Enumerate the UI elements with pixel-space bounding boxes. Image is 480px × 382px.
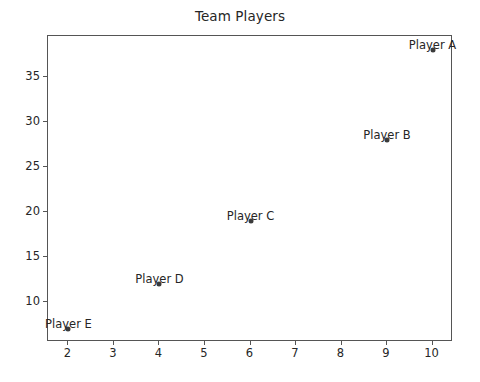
x-tick-label: 5: [200, 346, 207, 360]
data-point-label: Player B: [363, 128, 410, 142]
x-tick-label: 4: [155, 346, 162, 360]
x-tick-label: 2: [64, 346, 71, 360]
x-tick-mark: [204, 341, 205, 345]
x-tick-mark: [295, 341, 296, 345]
y-tick-label: 35: [25, 69, 40, 83]
y-tick-label: 25: [25, 159, 40, 173]
x-axis-tick-labels: 2345678910: [47, 346, 452, 366]
plot-frame: Player APlayer BPlayer CPlayer DPlayer E: [47, 35, 452, 341]
x-tick-mark: [67, 341, 68, 345]
x-tick-mark: [250, 341, 251, 345]
y-tick-label: 10: [25, 294, 40, 308]
x-tick-label: 3: [109, 346, 116, 360]
data-point-label: Player C: [227, 209, 274, 223]
y-tick-label: 20: [25, 204, 40, 218]
y-axis-tick-labels: 101520253035: [0, 35, 40, 341]
x-tick-label: 7: [291, 346, 298, 360]
x-tick-mark: [432, 341, 433, 345]
scatter-plot-figure: Team Players 101520253035 Player APlayer…: [0, 0, 480, 382]
x-tick-label: 9: [382, 346, 389, 360]
x-tick-mark: [341, 341, 342, 345]
x-tick-label: 6: [246, 346, 253, 360]
x-tick-mark: [386, 341, 387, 345]
data-point-label: Player E: [45, 317, 92, 331]
x-tick-label: 8: [337, 346, 344, 360]
x-tick-mark: [113, 341, 114, 345]
data-point-label: Player A: [409, 38, 456, 52]
x-tick-label: 10: [424, 346, 439, 360]
y-tick-label: 15: [25, 249, 40, 263]
y-tick-label: 30: [25, 114, 40, 128]
x-tick-mark: [158, 341, 159, 345]
plot-area: Player APlayer BPlayer CPlayer DPlayer E: [48, 36, 451, 340]
data-point-label: Player D: [135, 272, 183, 286]
chart-title: Team Players: [0, 8, 480, 24]
